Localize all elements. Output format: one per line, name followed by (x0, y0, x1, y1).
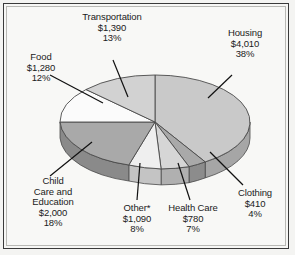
label-food: Food $1,280 12% (8, 52, 74, 84)
label-childcare: Child Care and Education $2,000 18% (10, 176, 96, 229)
label-transportation-name: Transportation (57, 12, 167, 23)
label-healthcare-name: Health Care (157, 203, 229, 214)
label-housing-name: Housing (205, 28, 285, 39)
label-clothing-name: Clothing (224, 188, 286, 199)
label-childcare-name-3: Education (10, 197, 96, 208)
label-transportation-percent: 13% (57, 33, 167, 44)
label-food-name: Food (8, 52, 74, 63)
label-housing: Housing $4,010 38% (205, 28, 285, 60)
label-childcare-name-1: Child (10, 176, 96, 187)
pie-chart: Transportation $1,390 13% Housing $4,010… (0, 0, 295, 255)
label-healthcare-percent: 7% (157, 224, 229, 235)
label-housing-percent: 38% (205, 49, 285, 60)
label-clothing: Clothing $410 4% (224, 188, 286, 220)
label-food-percent: 12% (8, 73, 74, 84)
chart-frame: Transportation $1,390 13% Housing $4,010… (0, 0, 295, 255)
label-transportation: Transportation $1,390 13% (57, 12, 167, 44)
label-childcare-percent: 18% (10, 218, 96, 229)
label-clothing-percent: 4% (224, 209, 286, 220)
label-healthcare: Health Care $780 7% (157, 203, 229, 235)
